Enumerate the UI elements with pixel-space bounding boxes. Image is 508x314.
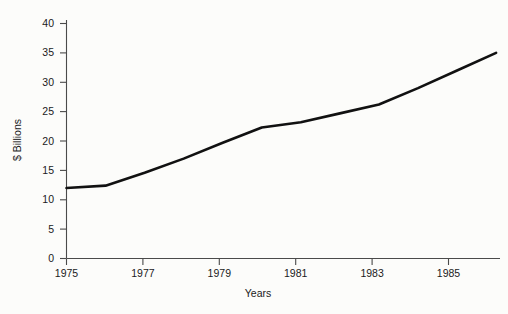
y-tick-label-10: 10 <box>42 193 54 205</box>
y-tick-label-30: 30 <box>42 76 54 88</box>
y-tick-label-0: 0 <box>48 252 54 264</box>
y-tick-label-15: 15 <box>42 164 54 176</box>
y-tick-label-40: 40 <box>42 17 54 29</box>
x-tick-label-1985: 1985 <box>437 267 461 279</box>
y-tick-label-35: 35 <box>42 46 54 58</box>
chart-page: 0 5 10 15 20 25 30 35 40 1975 1977 1979 … <box>0 0 508 314</box>
x-tick-label-1979: 1979 <box>208 267 232 279</box>
x-tick-label-1981: 1981 <box>284 267 308 279</box>
y-axis-title: $ Billions <box>11 119 23 161</box>
y-tick-label-25: 25 <box>42 105 54 117</box>
x-tick-label-1983: 1983 <box>360 267 384 279</box>
y-tick-label-20: 20 <box>42 135 54 147</box>
x-axis-title: Years <box>245 287 271 299</box>
y-tick-label-5: 5 <box>48 223 54 235</box>
x-tick-label-1977: 1977 <box>131 267 155 279</box>
x-tick-label-1975: 1975 <box>55 267 79 279</box>
line-chart: 0 5 10 15 20 25 30 35 40 1975 1977 1979 … <box>0 0 508 314</box>
